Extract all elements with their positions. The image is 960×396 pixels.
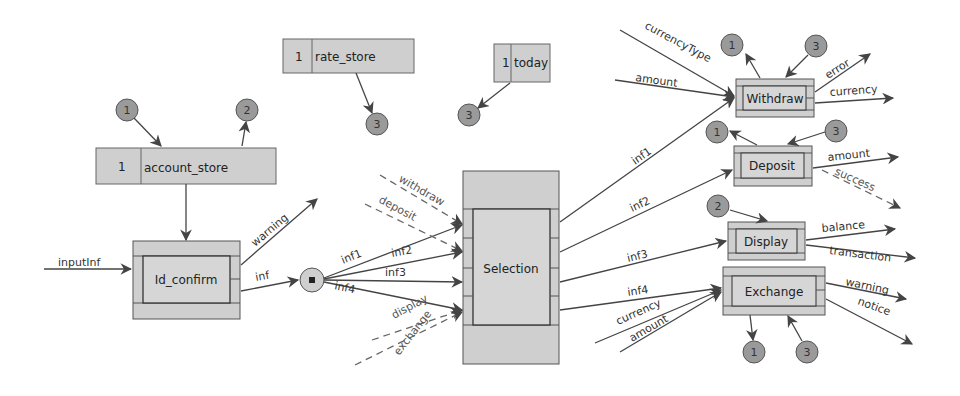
connector-3-withdraw-in[interactable]: 3 [805, 35, 827, 57]
today-store[interactable]: 1 today [494, 44, 550, 82]
flow-label-notice: notice [856, 295, 893, 319]
dataflow-diagram: 1 account_store 1 rate_store 1 today Id_… [0, 0, 960, 396]
flow-label-out-inf3: inf3 [626, 248, 649, 265]
svg-text:3: 3 [466, 109, 473, 122]
flow-label-inputInf: inputInf [58, 256, 102, 269]
process-selection[interactable]: Selection [463, 171, 559, 364]
connector-3-deposit-in[interactable]: 3 [825, 120, 847, 142]
connector-1-exchange-out[interactable]: 1 [743, 341, 765, 363]
flow-label-inf3: inf3 [385, 266, 406, 279]
flow-label-warning: warning [249, 211, 291, 249]
account-store[interactable]: 1 account_store [96, 148, 276, 184]
svg-text:2: 2 [715, 200, 722, 213]
svg-text:3: 3 [374, 118, 381, 131]
connector-1-withdraw-out[interactable]: 1 [721, 34, 743, 56]
process-id-confirm[interactable]: Id_confirm [133, 241, 240, 319]
process-display[interactable]: Display [728, 222, 805, 260]
connector-3-rate[interactable]: 3 [366, 113, 388, 135]
flow-label-out-inf1: inf1 [629, 145, 654, 168]
process-label: Display [744, 235, 788, 249]
svg-text:1: 1 [714, 126, 721, 139]
store-number: 1 [118, 160, 126, 174]
connector-3-today[interactable]: 3 [458, 104, 480, 126]
store-number: 1 [295, 50, 303, 64]
flow-label-out-inf4: inf4 [627, 283, 650, 299]
process-deposit[interactable]: Deposit [734, 146, 812, 186]
store-name: account_store [144, 161, 228, 175]
svg-text:3: 3 [813, 40, 820, 53]
flow-label-inf4: inf4 [333, 279, 356, 296]
svg-text:3: 3 [833, 125, 840, 138]
flow-label-inf: inf [254, 269, 271, 284]
connector-2-display-in[interactable]: 2 [707, 195, 729, 217]
flow-label-currencyType: currencyType [643, 19, 714, 65]
flow-label-inf2: inf2 [390, 244, 413, 260]
svg-text:1: 1 [124, 104, 131, 117]
svg-text:3: 3 [804, 346, 811, 359]
connector-1-acc-in[interactable]: 1 [116, 99, 138, 121]
process-label: Exchange [745, 285, 804, 299]
flow-label-out-inf2: inf2 [628, 194, 652, 215]
process-exchange[interactable]: Exchange [723, 267, 825, 315]
flow-label-warning-exchange: warning [844, 275, 890, 297]
process-label: Selection [483, 262, 538, 276]
flow-label-balance: balance [821, 218, 866, 235]
flow-label-error: error [823, 56, 853, 81]
process-label: Id_confirm [155, 273, 218, 287]
store-number: 1 [502, 56, 510, 70]
flow-label-transaction: transaction [829, 244, 892, 264]
process-label: Deposit [749, 159, 795, 173]
connector-2-acc-out[interactable]: 2 [236, 99, 258, 121]
rate-store[interactable]: 1 rate_store [283, 39, 414, 73]
svg-text:2: 2 [244, 104, 251, 117]
flow-label-currency-withdraw: currency [829, 83, 878, 99]
junction-node[interactable] [300, 268, 324, 292]
flow-label-success: success [833, 165, 878, 194]
connector-1-deposit-out[interactable]: 1 [706, 121, 728, 143]
flow-label-amount-withdraw: amount [635, 71, 680, 90]
svg-text:1: 1 [751, 346, 758, 359]
process-label: Withdraw [747, 92, 804, 106]
store-name: today [514, 56, 548, 70]
connector-3-exchange-in[interactable]: 3 [796, 341, 818, 363]
store-name: rate_store [315, 50, 376, 64]
process-withdraw[interactable]: Withdraw [736, 79, 814, 117]
svg-text:1: 1 [729, 39, 736, 52]
